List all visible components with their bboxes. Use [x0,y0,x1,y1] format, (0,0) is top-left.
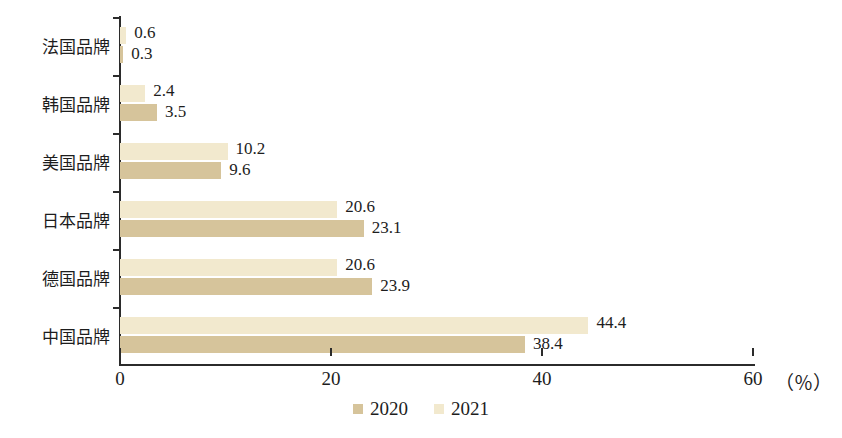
value-label-2021: 20.6 [345,198,375,215]
category-label: 日本品牌 [42,207,110,232]
plot-area: 法国品牌0.60.3韩国品牌2.43.5美国品牌10.29.6日本品牌20.62… [120,17,753,365]
x-axis-tick-label: 40 [533,368,552,390]
value-label-2021: 2.4 [153,82,174,99]
x-axis-tick [541,348,543,356]
legend-item[interactable]: 2021 [434,398,489,420]
category-band: 法国品牌0.60.3 [120,17,753,75]
bar-2021 [120,85,145,102]
value-label-2021: 10.2 [236,140,266,157]
x-axis-tick [752,348,754,356]
legend-label: 2021 [451,398,489,420]
value-label-2020: 23.9 [380,277,410,294]
chart-legend: 20202021 [0,398,842,420]
legend-item[interactable]: 2020 [353,398,408,420]
x-axis-unit-label: （％） [775,368,832,395]
value-label-2020: 0.3 [131,45,152,62]
bar-2020 [120,46,123,63]
category-label: 韩国品牌 [42,91,110,116]
value-label-2021: 44.4 [596,314,626,331]
bar-chart: 法国品牌0.60.3韩国品牌2.43.5美国品牌10.29.6日本品牌20.62… [0,0,842,438]
y-axis-tick [113,307,120,309]
value-label-2021: 0.6 [134,24,155,41]
legend-swatch-icon [353,404,363,414]
category-band: 中国品牌44.438.4 [120,307,753,365]
value-label-2021: 20.6 [345,256,375,273]
x-axis-tick-label: 20 [322,368,341,390]
legend-swatch-icon [434,404,444,414]
legend-label: 2020 [370,398,408,420]
x-axis-tick-label: 60 [744,368,763,390]
value-label-2020: 23.1 [372,219,402,236]
category-band: 韩国品牌2.43.5 [120,75,753,133]
bar-2021 [120,27,126,44]
bar-2021 [120,259,337,276]
category-band: 美国品牌10.29.6 [120,133,753,191]
x-axis-tick-label: 0 [115,368,125,390]
value-label-2020: 3.5 [165,103,186,120]
bar-2020 [120,336,525,353]
bar-2021 [120,201,337,218]
value-label-2020: 9.6 [229,161,250,178]
x-axis-tick [330,348,332,356]
bar-2020 [120,220,364,237]
value-label-2020: 38.4 [533,335,563,352]
bar-2021 [120,317,588,334]
bar-2020 [120,162,221,179]
y-axis-tick [113,191,120,193]
category-label: 德国品牌 [42,265,110,290]
category-band: 德国品牌20.623.9 [120,249,753,307]
x-axis-tick [119,348,121,356]
bar-2020 [120,278,372,295]
category-label: 中国品牌 [42,323,110,348]
y-axis-tick [113,249,120,251]
category-label: 法国品牌 [42,33,110,58]
category-label: 美国品牌 [42,149,110,174]
y-axis-tick [113,75,120,77]
bar-2020 [120,104,157,121]
y-axis-tick [113,133,120,135]
category-band: 日本品牌20.623.1 [120,191,753,249]
bar-2021 [120,143,228,160]
y-axis-tick [113,17,120,19]
